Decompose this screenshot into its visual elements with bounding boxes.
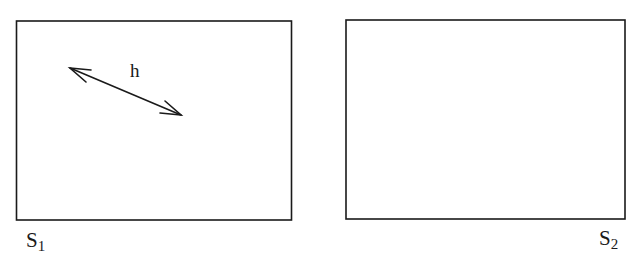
panel-s2-label: S2 (599, 226, 618, 252)
diagram-canvas: h S1 S2 (0, 0, 633, 265)
panel-s2-label-main: S (599, 226, 611, 250)
double-arrow-h (70, 68, 181, 115)
panel-s1-label-sub: 1 (38, 238, 46, 254)
panel-s1: h S1 (17, 21, 292, 254)
arrow-shaft (70, 68, 181, 115)
panel-s1-frame (17, 21, 292, 220)
panel-s1-label-main: S (26, 228, 38, 252)
arrow-label-h: h (130, 60, 140, 81)
panel-s1-label: S1 (26, 228, 45, 254)
panel-s2: S2 (346, 20, 625, 252)
panel-s2-label-sub: 2 (611, 236, 619, 252)
panel-s2-frame (346, 20, 625, 219)
